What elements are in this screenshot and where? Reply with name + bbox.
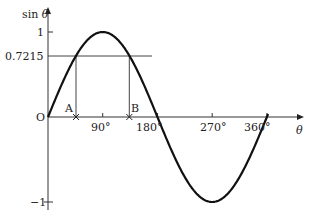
origin-label: O <box>36 111 45 124</box>
sine-graph: sin θ θ O 1 0.7215 −1 90° 180° 270° 360°… <box>0 0 313 219</box>
x-label-270: 270° <box>200 121 227 134</box>
x-axis-label: θ <box>296 124 303 137</box>
y-label-0.7215: 0.7215 <box>5 50 44 63</box>
point-b-label: B <box>131 102 139 115</box>
x-label-180: 180° <box>136 121 163 134</box>
y-label-1: 1 <box>37 26 44 39</box>
x-axis-arrow-icon <box>297 114 304 120</box>
x-label-360: 360° <box>244 121 271 134</box>
chart-svg: sin θ θ O 1 0.7215 −1 90° 180° 270° 360°… <box>0 0 313 219</box>
y-axis-label: sin θ <box>22 8 49 21</box>
x-label-90: 90° <box>91 121 111 134</box>
point-a-label: A <box>64 102 74 115</box>
y-label-minus-1: −1 <box>30 196 46 209</box>
